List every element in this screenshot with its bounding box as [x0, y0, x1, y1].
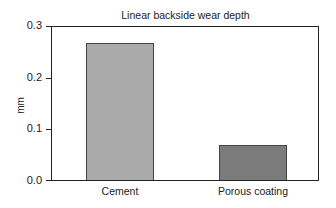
x-category-label: Porous coating [203, 185, 303, 197]
y-tick-label: 0.2 [12, 71, 42, 83]
y-tick-label: 0.3 [12, 19, 42, 31]
bar-porous-coating [219, 145, 287, 180]
plot-area [51, 26, 319, 181]
y-tick-label: 0.0 [12, 174, 42, 186]
y-tick-label: 0.1 [12, 122, 42, 134]
bar-cement [86, 43, 154, 180]
chart-title: Linear backside wear depth [51, 9, 320, 21]
y-axis-label: mm [15, 96, 26, 116]
x-category-label: Cement [85, 185, 155, 197]
